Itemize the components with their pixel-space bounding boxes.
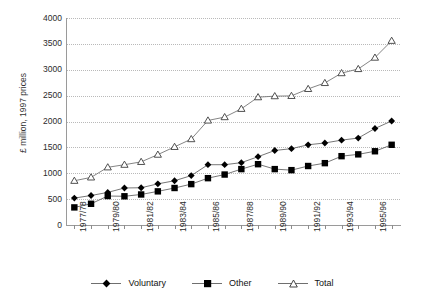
- diamond-marker-icon: [388, 118, 395, 125]
- x-axis-tick: [124, 225, 125, 229]
- square-marker-icon: [188, 181, 194, 187]
- y-axis-tick-label: 2000: [22, 116, 62, 126]
- legend-item-voluntary[interactable]: Voluntary: [91, 278, 166, 288]
- square-marker-icon: [355, 151, 361, 157]
- x-axis-tick: [291, 225, 292, 229]
- triangle-marker-icon: [138, 158, 145, 164]
- square-marker-icon: [388, 142, 394, 148]
- diamond-marker-icon: [171, 177, 178, 184]
- diamond-marker-icon: [321, 140, 328, 147]
- square-marker-icon: [238, 166, 244, 172]
- square-marker-icon: [192, 279, 222, 288]
- diamond-marker-icon: [338, 137, 345, 144]
- x-axis-tick: [74, 225, 75, 229]
- legend-label-voluntary: Voluntary: [125, 278, 166, 288]
- legend-item-total[interactable]: Total: [278, 278, 334, 288]
- x-axis-tick: [275, 225, 276, 229]
- diamond-marker-icon: [305, 141, 312, 148]
- series-line: [74, 41, 391, 181]
- triangle-marker-icon: [288, 92, 295, 98]
- square-marker-icon: [288, 167, 294, 173]
- y-axis-tick-label: 0: [22, 220, 62, 230]
- triangle-marker-icon: [238, 105, 245, 111]
- x-axis-tick-label: 1985/86: [211, 201, 221, 232]
- square-marker-icon: [322, 160, 328, 166]
- x-axis-tick-label: 1995/96: [378, 201, 388, 232]
- triangle-marker-icon: [355, 65, 362, 71]
- x-axis-tick-label: 1977/78: [78, 201, 88, 232]
- diamond-marker-icon: [88, 192, 95, 199]
- square-marker-icon: [338, 153, 344, 159]
- diamond-marker-icon: [255, 153, 262, 160]
- x-axis-tick: [325, 225, 326, 229]
- x-axis-tick: [175, 225, 176, 229]
- x-axis-tick-label: 1987/88: [245, 201, 255, 232]
- x-axis-tick: [241, 225, 242, 229]
- x-axis-tick: [358, 225, 359, 229]
- diamond-marker-icon: [372, 125, 379, 132]
- square-marker-icon: [105, 193, 111, 199]
- y-axis-tick-label: 2500: [22, 90, 62, 100]
- square-marker-icon: [71, 204, 77, 210]
- x-axis-tick: [308, 225, 309, 229]
- x-axis-tick-label: 1981/82: [145, 201, 155, 232]
- diamond-marker-icon: [221, 161, 228, 168]
- square-marker-icon: [171, 185, 177, 191]
- triangle-marker-icon: [221, 114, 228, 120]
- legend-label-total: Total: [312, 278, 334, 288]
- diamond-marker-icon: [271, 147, 278, 154]
- y-axis-tick-label: 3000: [22, 64, 62, 74]
- square-marker-icon: [205, 175, 211, 181]
- diamond-marker-icon: [188, 172, 195, 179]
- x-axis-tick: [191, 225, 192, 229]
- y-axis-tick-label: 1000: [22, 168, 62, 178]
- triangle-marker-icon: [278, 279, 308, 288]
- x-axis-tick: [141, 225, 142, 229]
- legend-label-other: Other: [226, 278, 252, 288]
- triangle-marker-icon: [388, 37, 395, 43]
- x-axis-tick: [375, 225, 376, 229]
- x-axis-tick-label: 1979/80: [111, 201, 121, 232]
- chart-legend: Voluntary Other Total: [0, 278, 425, 288]
- diamond-marker-icon: [355, 135, 362, 142]
- y-axis-tick-label: 1500: [22, 142, 62, 152]
- square-marker-icon: [221, 171, 227, 177]
- y-axis-tick-label: 4000: [22, 13, 62, 23]
- x-axis-tick: [91, 225, 92, 229]
- x-axis-tick-label: 1989/90: [278, 201, 288, 232]
- y-axis-tick-label: 500: [22, 194, 62, 204]
- square-marker-icon: [272, 166, 278, 172]
- square-marker-icon: [88, 201, 94, 207]
- x-axis-tick: [225, 225, 226, 229]
- triangle-marker-icon: [321, 79, 328, 85]
- square-marker-icon: [305, 163, 311, 169]
- x-axis-tick: [392, 225, 393, 229]
- triangle-marker-icon: [154, 151, 161, 157]
- square-marker-icon: [372, 148, 378, 154]
- series-voluntary: [71, 118, 395, 202]
- legend-item-other[interactable]: Other: [192, 278, 252, 288]
- x-axis-tick: [342, 225, 343, 229]
- x-axis-tick: [158, 225, 159, 229]
- triangle-marker-icon: [87, 174, 94, 180]
- diamond-marker-icon: [91, 279, 121, 288]
- diamond-marker-icon: [288, 145, 295, 152]
- x-axis-tick-label: 1993/94: [345, 201, 355, 232]
- x-axis-tick: [208, 225, 209, 229]
- diamond-marker-icon: [138, 184, 145, 191]
- diamond-marker-icon: [71, 195, 78, 202]
- triangle-marker-icon: [171, 143, 178, 149]
- data-series-layer: [66, 18, 400, 225]
- x-axis-tick-label: 1991/92: [312, 201, 322, 232]
- square-marker-icon: [155, 188, 161, 194]
- square-marker-icon: [255, 161, 261, 167]
- x-axis-tick-label: 1983/84: [178, 201, 188, 232]
- series-total: [71, 37, 396, 183]
- square-marker-icon: [138, 191, 144, 197]
- y-axis-tick-label: 3500: [22, 38, 62, 48]
- square-marker-icon: [121, 193, 127, 199]
- diamond-marker-icon: [205, 161, 212, 168]
- diamond-marker-icon: [238, 159, 245, 166]
- chart-container: £ million, 1997 prices 05001000150020002…: [0, 0, 425, 302]
- series-line: [74, 121, 391, 198]
